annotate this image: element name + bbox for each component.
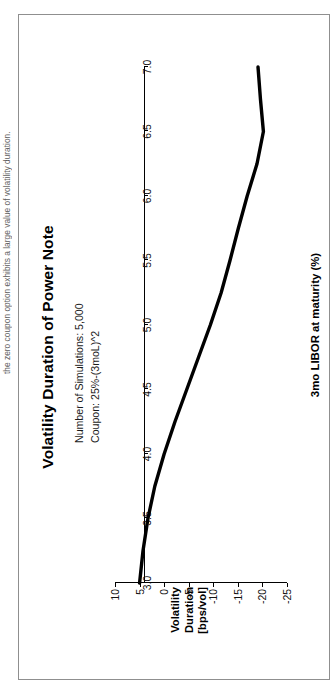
annotation-line-simulations: Number of Simulations: 5,000 [71,303,87,443]
y-tick [287,583,288,587]
y-tick [262,583,263,587]
y-tick-label: 0 [159,589,170,595]
y-tick-label: -25 [282,589,293,604]
y-tick [115,583,116,587]
y-tick-label: 10 [110,589,121,601]
y-tick [189,583,190,587]
page-caption-strip: the zero coupon option exhibits a large … [0,0,14,692]
y-tick [164,583,165,587]
page-caption-text: the zero coupon option exhibits a large … [0,0,14,692]
y-axis-title: Volatility Duration [bps/vol] [169,587,210,679]
y-tick-label: 5 [134,589,145,595]
y-tick-label: -15 [232,589,243,604]
plot-area: 3.03.54.04.55.05.56.06.57.0 1050-5-10-15… [115,67,287,583]
y-tick-label: -5 [183,589,194,598]
y-axis-title-line-1: Volatility [169,587,183,679]
y-axis-title-line-2: Duration [183,587,197,679]
series-volatility-duration [140,67,264,583]
rotated-chart-container: Volatility Duration of Power Note Number… [19,15,329,679]
y-tick [213,583,214,587]
x-axis-title: 3mo LIBOR at maturity (%) [309,67,321,583]
chart-title: Volatility Duration of Power Note [39,15,57,679]
y-tick [238,583,239,587]
annotation-line-coupon: Coupon: 25%-(3moL)^2 [87,303,103,443]
y-tick-label: -10 [208,589,219,604]
chart-annotation-block: Number of Simulations: 5,000 Coupon: 25%… [71,303,103,443]
data-curve [115,57,297,583]
figure-frame: Volatility Duration of Power Note Number… [18,14,330,680]
y-tick-label: -20 [257,589,268,604]
